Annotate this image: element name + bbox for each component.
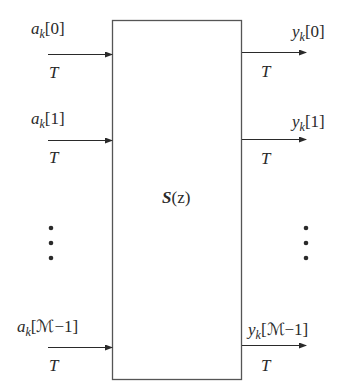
input-1: ak[1] T: [31, 109, 112, 167]
output-0: yk[0] T: [242, 22, 325, 81]
output-ellipsis-dots: [304, 226, 309, 261]
input-0-rate: T: [49, 63, 60, 82]
input-last: ak[ℳ−1] T: [17, 317, 112, 375]
input-0: ak[0] T: [31, 19, 112, 82]
input-last-label: ak[ℳ−1]: [17, 317, 78, 339]
output-last-label: yk[ℳ−1]: [246, 320, 308, 342]
output-1-label: yk[1]: [290, 112, 325, 134]
output-last: yk[ℳ−1] T: [242, 320, 308, 375]
diagram-canvas: S(z) ak[0] T ak[1] T ak[ℳ−1] T yk[0] T y…: [0, 0, 356, 392]
output-0-rate: T: [261, 62, 272, 81]
output-1-rate: T: [261, 149, 272, 168]
input-last-rate: T: [49, 356, 60, 375]
input-1-label: ak[1]: [31, 109, 65, 131]
output-0-label: yk[0]: [290, 22, 325, 44]
input-0-label: ak[0]: [31, 19, 65, 41]
input-ellipsis-dots: [49, 226, 54, 261]
output-last-rate: T: [261, 356, 272, 375]
output-1: yk[1] T: [242, 112, 325, 168]
block-label: S(z): [162, 188, 190, 207]
input-1-rate: T: [49, 148, 60, 167]
